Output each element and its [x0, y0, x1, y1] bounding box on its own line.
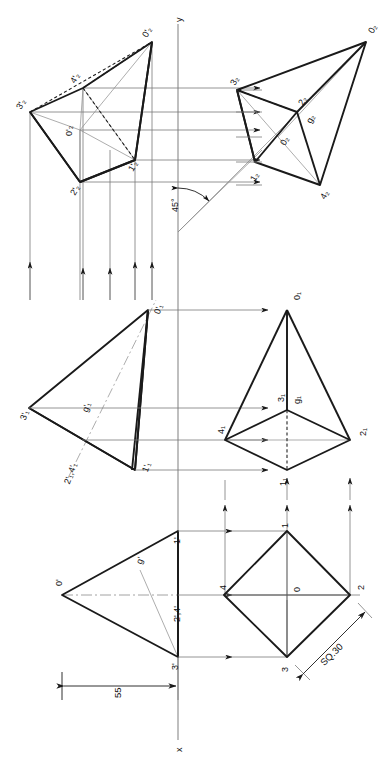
label-front-apex: 0' [54, 579, 64, 586]
label-top-v3: 3 [280, 667, 290, 672]
top-view [224, 531, 350, 657]
angle-label-45: 45° [170, 198, 180, 212]
label-aux-top-v1: 1₁ [278, 478, 288, 486]
label-top-v2: 2 [356, 585, 366, 590]
label-aux-top-g: g₁ [292, 396, 302, 404]
drawing-sheet: y x 45° 55 SQ.30 0'₂ 3'₂ 4'₂ 0'₂ 1'₂ 2'₂… [0, 0, 387, 758]
front-view [62, 531, 178, 657]
label-top-v1: 1 [280, 523, 290, 528]
label-aux-top-v3: 3₁ [276, 394, 286, 402]
projector-lines-vertical-left [30, 262, 152, 300]
auxiliary-top-view [225, 310, 350, 470]
label-front-v3: 3' [170, 663, 180, 670]
label-2nd-aux-front-center: 0'₂ [64, 126, 74, 136]
dimension-sq30 [295, 603, 372, 680]
axis-label-y: y [174, 18, 184, 23]
projector-lines-middle [29, 310, 268, 470]
auxiliary-front-view [29, 300, 156, 478]
drawing-canvas [0, 0, 387, 758]
label-top-v4: 4 [218, 585, 228, 590]
second-auxiliary-top-view [237, 42, 366, 185]
label-aux-top-v4: 4₁ [216, 426, 226, 434]
construction-lines-upper-left [30, 42, 178, 300]
label-front-v1: 1' [172, 537, 182, 544]
label-top-center: 0 [292, 587, 302, 592]
label-aux-top-v2: 2₁ [358, 428, 368, 436]
label-aux-top-apex: 0₁ [292, 292, 302, 300]
label-front-v24: 2',4' [172, 606, 182, 622]
dimension-label-55: 55 [112, 687, 123, 698]
axis-label-x: x [174, 748, 184, 753]
